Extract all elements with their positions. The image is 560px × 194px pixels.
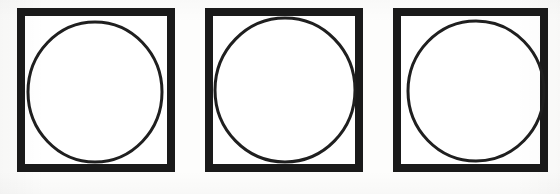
circle-in-square-1	[13, 4, 179, 176]
figure-canvas	[0, 0, 560, 194]
shape-2-svg	[201, 4, 367, 176]
shape-1-svg	[13, 4, 179, 176]
square-2-fill	[205, 8, 363, 172]
shape-3-svg	[389, 4, 552, 176]
circle-in-square-2	[201, 4, 367, 176]
square-3-fill	[393, 8, 548, 172]
circle-in-square-3	[389, 4, 552, 176]
square-1-fill	[17, 8, 175, 172]
